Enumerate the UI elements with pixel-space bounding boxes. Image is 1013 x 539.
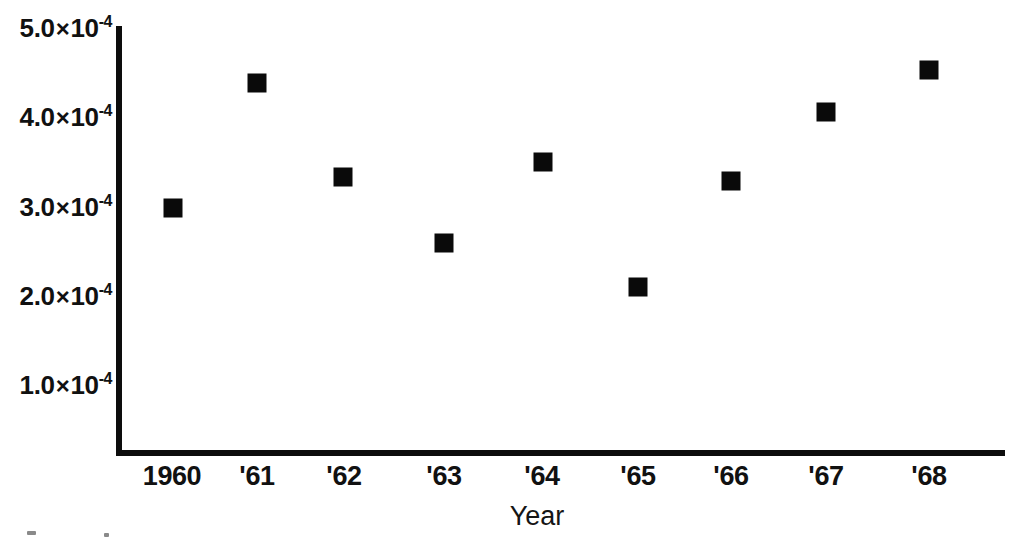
data-point-marker bbox=[164, 199, 183, 218]
tick-exponent: -4 bbox=[99, 370, 112, 387]
tick-base: 10 bbox=[70, 281, 98, 311]
x-axis-tick-label: '66 bbox=[713, 463, 748, 490]
data-point-marker bbox=[722, 172, 741, 191]
x-axis-tick-label: '63 bbox=[426, 463, 461, 490]
tick-mantissa: 4.0 bbox=[19, 102, 54, 132]
multiplication-sign: × bbox=[55, 194, 71, 221]
y-axis-tick-labels: 5.0×10-44.0×10-43.0×10-42.0×10-41.0×10-4 bbox=[0, 0, 112, 539]
multiplication-sign: × bbox=[55, 15, 71, 42]
scan-artifact bbox=[27, 531, 36, 535]
data-point-marker bbox=[920, 61, 939, 80]
data-point-marker bbox=[248, 74, 267, 93]
data-point-marker bbox=[629, 278, 648, 297]
x-axis-tick-label: '64 bbox=[524, 463, 559, 490]
scatter-chart-figure: 5.0×10-44.0×10-43.0×10-42.0×10-41.0×10-4… bbox=[0, 0, 1013, 539]
x-axis-tick-label: '65 bbox=[620, 463, 655, 490]
y-axis-tick-label: 4.0×10-4 bbox=[0, 104, 112, 130]
tick-mantissa: 5.0 bbox=[19, 13, 54, 43]
tick-exponent: -4 bbox=[99, 192, 112, 209]
y-axis-tick-label: 3.0×10-4 bbox=[0, 194, 112, 220]
tick-base: 10 bbox=[70, 102, 98, 132]
tick-base: 10 bbox=[70, 192, 98, 222]
tick-exponent: -4 bbox=[99, 13, 112, 30]
tick-exponent: -4 bbox=[99, 102, 112, 119]
multiplication-sign: × bbox=[55, 283, 71, 310]
x-axis-tick-label: '67 bbox=[808, 463, 843, 490]
tick-mantissa: 1.0 bbox=[19, 370, 54, 400]
data-point-marker bbox=[435, 234, 454, 253]
multiplication-sign: × bbox=[55, 104, 71, 131]
y-axis-tick-label: 5.0×10-4 bbox=[0, 15, 112, 41]
data-point-marker bbox=[534, 153, 553, 172]
x-axis-tick-label: 1960 bbox=[143, 463, 201, 490]
data-point-marker bbox=[334, 168, 353, 187]
x-axis-title: Year bbox=[510, 503, 565, 530]
tick-base: 10 bbox=[70, 13, 98, 43]
data-point-marker bbox=[817, 103, 836, 122]
scan-artifact bbox=[104, 533, 109, 537]
x-axis-tick-label: '68 bbox=[911, 463, 946, 490]
tick-base: 10 bbox=[70, 370, 98, 400]
x-axis-line bbox=[116, 450, 1005, 456]
tick-mantissa: 3.0 bbox=[19, 192, 54, 222]
tick-exponent: -4 bbox=[99, 281, 112, 298]
y-axis-line bbox=[116, 26, 122, 456]
multiplication-sign: × bbox=[55, 372, 71, 399]
x-axis-tick-label: '62 bbox=[326, 463, 361, 490]
x-axis-tick-label: '61 bbox=[239, 463, 274, 490]
y-axis-tick-label: 2.0×10-4 bbox=[0, 283, 112, 309]
tick-mantissa: 2.0 bbox=[19, 281, 54, 311]
y-axis-tick-label: 1.0×10-4 bbox=[0, 372, 112, 398]
